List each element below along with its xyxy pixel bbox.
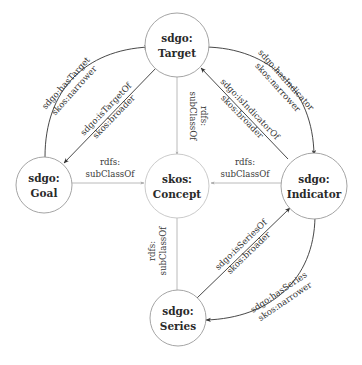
node-label-prefix: sdgo: bbox=[298, 173, 329, 185]
node-label-name: Series bbox=[160, 320, 196, 332]
node-label-prefix: sdgo: bbox=[162, 305, 193, 317]
edge-label-line2: subClassOf bbox=[86, 169, 136, 179]
edge-series-subclassof-concept: rdfs: subClassOf bbox=[147, 214, 177, 290]
node-label-prefix: sdgo: bbox=[28, 172, 59, 184]
node-label-name: Target bbox=[158, 47, 196, 59]
ontology-diagram: rdfs: subClassOf rdfs: subClassOf rdfs: … bbox=[0, 0, 362, 365]
edge-label-line1: rdfs: bbox=[147, 241, 157, 261]
edge-goal-subclassof-concept: rdfs: subClassOf bbox=[72, 157, 144, 183]
edge-indicator-subclassof-concept: rdfs: subClassOf bbox=[211, 157, 283, 183]
edge-label-line2: subClassOf bbox=[188, 92, 198, 142]
node-label-name: Concept bbox=[153, 188, 201, 200]
node-concept: skos: Concept bbox=[145, 154, 209, 218]
node-series: sdgo: Series bbox=[150, 290, 206, 346]
node-label-prefix: skos: bbox=[162, 173, 192, 185]
node-label-name: Goal bbox=[31, 187, 58, 199]
edge-label-line1: rdfs: bbox=[235, 157, 255, 167]
node-label-name: Indicator bbox=[287, 188, 342, 200]
node-goal: sdgo: Goal bbox=[16, 157, 72, 213]
node-target: sdgo: Target bbox=[145, 13, 209, 77]
node-label-prefix: sdgo: bbox=[161, 32, 192, 44]
edge-label-line2: subClassOf bbox=[158, 226, 168, 276]
node-indicator: sdgo: Indicator bbox=[281, 153, 347, 219]
edge-label-line1: rdfs: bbox=[100, 157, 120, 167]
edge-label-line1: rdfs: bbox=[199, 106, 209, 126]
edge-series-isseriesof-indicator: sdgo:isSeriesOf skos:broader bbox=[197, 208, 290, 298]
edge-target-subclassof-concept: rdfs: subClassOf bbox=[177, 77, 209, 155]
edge-label-line2: subClassOf bbox=[221, 169, 271, 179]
